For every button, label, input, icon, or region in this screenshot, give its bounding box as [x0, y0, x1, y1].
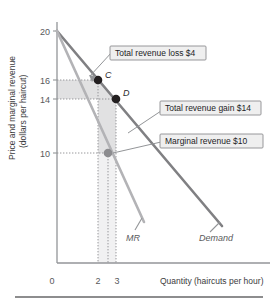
- demand-curve-label: Demand: [199, 233, 234, 243]
- point-d-marker[interactable]: [112, 95, 121, 104]
- y-axis-title-line2: (dollars per haircut): [18, 75, 28, 148]
- total-revenue-loss-callout[interactable]: Total revenue loss $4: [110, 46, 206, 60]
- mr-label-leader: [135, 218, 142, 230]
- y-tick-label-20: 20: [40, 27, 50, 37]
- marginal-revenue-callout-text: Marginal revenue $10: [165, 136, 247, 146]
- total-revenue-gain-callout-text: Total revenue gain $14: [165, 103, 251, 113]
- quantity-band-lower: [98, 153, 116, 263]
- leader-marginal-revenue: [113, 142, 161, 153]
- total-revenue-loss-region: [57, 80, 98, 99]
- curve-label-leaders: [135, 218, 220, 232]
- x-tick-label-2: 2: [95, 276, 100, 286]
- marginal-revenue-callout[interactable]: Marginal revenue $10: [160, 134, 263, 148]
- x-axis-title: Quantity (haircuts per hour): [160, 276, 264, 286]
- total-revenue-loss-callout-text: Total revenue loss $4: [115, 48, 196, 58]
- y-tick-label-16: 16: [40, 76, 50, 86]
- point-label-c: C: [105, 70, 112, 80]
- marginal-revenue-point-marker[interactable]: [104, 149, 113, 158]
- y-tick-label-10: 10: [40, 149, 50, 159]
- demand-marginal-revenue-chart: 20 16 14 10 0 2 3 Quantity (haircuts per…: [0, 0, 278, 305]
- y-tick-label-14: 14: [40, 95, 50, 105]
- y-axis-title-line1: Price and marginal revenue: [7, 56, 17, 160]
- total-revenue-gain-callout[interactable]: Total revenue gain $14: [160, 101, 261, 115]
- x-tick-label-0: 0: [49, 276, 54, 286]
- demand-label-leader: [210, 222, 220, 232]
- point-label-d: D: [123, 88, 130, 98]
- figure-container: 20 16 14 10 0 2 3 Quantity (haircuts per…: [0, 0, 278, 305]
- shaded-regions: [57, 80, 116, 263]
- marginal-revenue-curve-label: MR: [126, 233, 140, 243]
- x-tick-label-3: 3: [114, 276, 119, 286]
